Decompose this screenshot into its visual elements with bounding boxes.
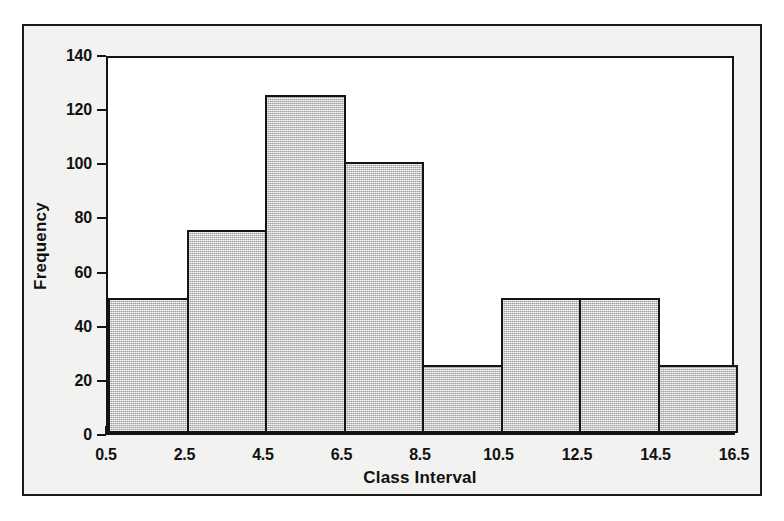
histogram-bar [579,298,660,433]
y-tick-label: 40 [75,318,92,336]
histogram-bar [658,365,739,433]
y-tick-label: 120 [66,101,92,119]
bars-layer [108,58,732,433]
y-tick-label: 0 [83,426,92,444]
y-axis-ticks: 020406080100120140 [0,0,106,521]
x-tick-label: 0.5 [95,446,117,464]
y-tick-label: 140 [66,47,92,65]
x-tick-label: 6.5 [331,446,353,464]
histogram-bar [265,95,346,433]
x-tick-label: 12.5 [562,446,592,464]
histogram-bar [187,230,268,433]
histogram-figure: Frequency 020406080100120140 0.52.54.56.… [0,0,784,521]
y-tick-label: 80 [75,209,92,227]
histogram-bar [422,365,503,433]
histogram-bar [501,298,582,433]
x-tick-label: 10.5 [483,446,513,464]
x-tick-label: 2.5 [174,446,196,464]
x-tick-label: 16.5 [719,446,749,464]
x-tick-mark [105,426,107,435]
plot-area [106,56,734,435]
x-tick-label: 8.5 [409,446,431,464]
y-tick-label: 20 [75,372,92,390]
y-tick-mark [97,55,106,57]
y-tick-mark [97,326,106,328]
histogram-bar [344,162,425,433]
y-tick-label: 100 [66,155,92,173]
y-tick-mark [97,163,106,165]
y-tick-mark [97,272,106,274]
y-tick-mark [97,217,106,219]
y-tick-mark [97,380,106,382]
x-axis-title: Class Interval [106,468,734,488]
x-tick-label: 4.5 [252,446,274,464]
histogram-bar [108,298,189,433]
y-tick-mark [97,109,106,111]
x-tick-label: 14.5 [640,446,670,464]
y-tick-label: 60 [75,264,92,282]
